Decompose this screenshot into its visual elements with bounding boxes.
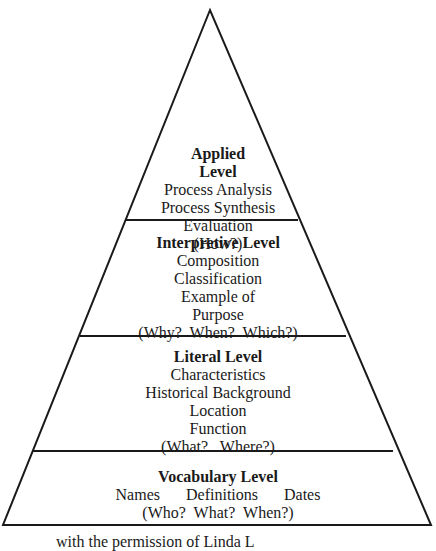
level-item: Names xyxy=(116,486,160,503)
level-question: (Why? When? Which?) xyxy=(0,324,436,342)
level-item: Location xyxy=(0,402,436,420)
level-literal: Literal Level Characteristics Historical… xyxy=(0,348,436,456)
level-item: Historical Background xyxy=(0,384,436,402)
level-item: Process Analysis xyxy=(0,181,436,199)
level-item: Classification xyxy=(0,270,436,288)
level-title: Level xyxy=(0,163,436,181)
level-item: Dates xyxy=(284,486,320,503)
level-title: Literal Level xyxy=(0,348,436,366)
level-title: Vocabulary Level xyxy=(0,468,436,486)
level-title: Applied xyxy=(0,145,436,163)
level-items-row: NamesDefinitionsDates xyxy=(0,486,436,504)
level-item: Evaluation xyxy=(0,217,436,235)
level-item: Characteristics xyxy=(0,366,436,384)
caption-clipped: with the permission of Linda L xyxy=(56,533,255,551)
level-interpretive: Interpretive Level Composition Classific… xyxy=(0,234,436,342)
level-item: Definitions xyxy=(186,486,258,503)
level-question: (What? Where?) xyxy=(0,438,436,456)
level-item: Process Synthesis xyxy=(0,199,436,217)
level-vocabulary: Vocabulary Level NamesDefinitionsDates (… xyxy=(0,468,436,522)
level-item: Purpose xyxy=(0,306,436,324)
level-item: Example of xyxy=(0,288,436,306)
level-question: (Who? What? When?) xyxy=(0,504,436,522)
level-item: Composition xyxy=(0,252,436,270)
level-item: Function xyxy=(0,420,436,438)
level-title: Interpretive Level xyxy=(0,234,436,252)
